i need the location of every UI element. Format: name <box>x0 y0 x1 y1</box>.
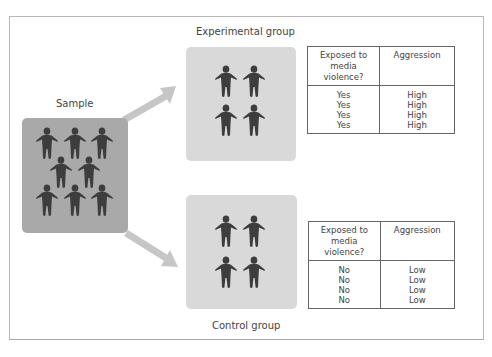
header-line: media <box>310 61 377 72</box>
cell-value: No <box>311 275 378 285</box>
experimental-group-label: Experimental group <box>196 26 295 37</box>
cell-value: Yes <box>310 100 377 110</box>
cell-value: No <box>311 265 378 275</box>
header-aggression: Aggression <box>380 222 454 261</box>
cell-value: No <box>311 285 378 295</box>
cell-value: Yes <box>310 120 377 130</box>
cell-value: Low <box>383 285 452 295</box>
table-header-row: Exposed to media violence? Aggression <box>309 222 455 261</box>
aggression-values: Low Low Low Low <box>380 261 454 309</box>
cell-value: Low <box>383 295 452 305</box>
header-line: media <box>311 236 378 247</box>
header-line: Exposed to <box>311 225 378 236</box>
experimental-results-table: Exposed to media violence? Aggression Ye… <box>307 46 455 134</box>
control-results-table: Exposed to media violence? Aggression No… <box>308 221 455 309</box>
person-icon <box>90 184 114 217</box>
exposed-values: No No No No <box>309 261 381 309</box>
exposed-values: Yes Yes Yes Yes <box>308 86 380 134</box>
header-exposed: Exposed to media violence? <box>308 47 380 86</box>
cell-value: Yes <box>310 110 377 120</box>
header-aggression: Aggression <box>380 47 455 86</box>
person-icon <box>35 184 59 217</box>
cell-value: No <box>311 295 378 305</box>
person-icon <box>214 65 238 98</box>
person-icon <box>242 104 266 137</box>
cell-value: High <box>382 120 452 130</box>
person-icon <box>214 104 238 137</box>
sample-label: Sample <box>56 98 94 109</box>
person-icon <box>242 256 266 289</box>
person-icon <box>214 215 238 248</box>
control-group-box <box>186 195 297 309</box>
control-group-label: Control group <box>212 320 280 331</box>
header-line: Aggression <box>383 225 452 236</box>
person-icon <box>63 184 87 217</box>
header-exposed: Exposed to media violence? <box>309 222 381 261</box>
person-icon <box>242 65 266 98</box>
person-icon <box>214 256 238 289</box>
header-line: violence? <box>311 247 378 258</box>
header-line: violence? <box>310 72 377 83</box>
table-header-row: Exposed to media violence? Aggression <box>308 47 455 86</box>
cell-value: Low <box>383 265 452 275</box>
experimental-group-box <box>186 47 296 161</box>
header-line: Aggression <box>382 50 452 61</box>
cell-value: Low <box>383 275 452 285</box>
cell-value: High <box>382 90 452 100</box>
aggression-values: High High High High <box>380 86 455 134</box>
cell-value: High <box>382 110 452 120</box>
sample-box <box>22 118 128 233</box>
person-icon <box>242 215 266 248</box>
cell-value: Yes <box>310 90 377 100</box>
header-line: Exposed to <box>310 50 377 61</box>
cell-value: High <box>382 100 452 110</box>
table-row: Yes Yes Yes Yes High High High High <box>308 86 455 134</box>
table-row: No No No No Low Low Low Low <box>309 261 455 309</box>
